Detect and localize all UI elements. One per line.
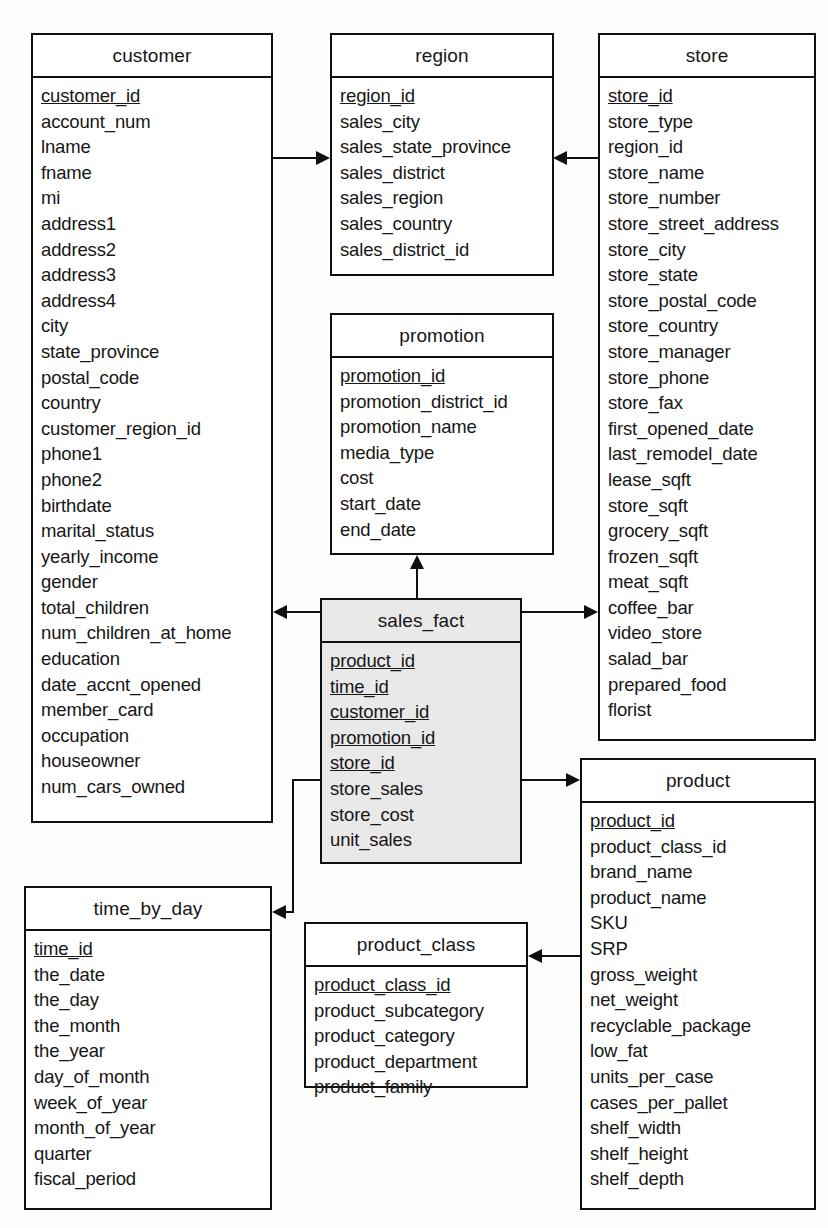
entity-promotion[interactable]: promotion promotion_id promotion_distric… [330, 313, 554, 555]
entity-title-region: region [332, 35, 552, 78]
attribute-row: address1 [41, 211, 271, 237]
attribute-row: phone2 [41, 467, 271, 493]
attribute-list-product: product_id product_class_id brand_name p… [582, 803, 814, 1198]
attribute-row: units_per_case [590, 1064, 814, 1090]
attribute-row: promotion_name [340, 414, 552, 440]
attribute-row: address3 [41, 262, 271, 288]
attribute-row: day_of_month [34, 1064, 270, 1090]
connector-store-region [566, 157, 598, 159]
attribute-row: gross_weight [590, 962, 814, 988]
attribute-row: lname [41, 134, 271, 160]
entity-product-class[interactable]: product_class product_class_id product_s… [304, 922, 528, 1088]
attribute-row: postal_code [41, 365, 271, 391]
attribute-row: store_sales [330, 776, 520, 802]
connector-salesfact-timebyday-seg1 [292, 779, 322, 781]
attribute-row: media_type [340, 440, 552, 466]
attribute-row: florist [608, 697, 814, 723]
erd-canvas: customer customer_id account_num lname f… [0, 0, 828, 1228]
attribute-row: store_number [608, 185, 814, 211]
arrowhead-salesfact-store [584, 605, 598, 619]
attribute-row: fname [41, 160, 271, 186]
entity-region[interactable]: region region_id sales_city sales_state_… [330, 33, 554, 276]
attribute-list-region: region_id sales_city sales_state_provinc… [332, 78, 552, 268]
arrowhead-salesfact-timebyday [272, 905, 286, 919]
attribute-row: marital_status [41, 518, 271, 544]
entity-customer[interactable]: customer customer_id account_num lname f… [31, 33, 273, 823]
attribute-row: last_remodel_date [608, 441, 814, 467]
attribute-row: sales_city [340, 109, 552, 135]
attribute-row: promotion_district_id [340, 389, 552, 415]
attribute-row: promotion_id [340, 363, 552, 389]
attribute-row: yearly_income [41, 544, 271, 570]
attribute-row: brand_name [590, 859, 814, 885]
attribute-row: store_city [608, 237, 814, 263]
attribute-row: start_date [340, 491, 552, 517]
attribute-row: account_num [41, 109, 271, 135]
attribute-row: phone1 [41, 441, 271, 467]
connector-salesfact-customer [286, 611, 320, 613]
attribute-row: store_type [608, 109, 814, 135]
attribute-row: product_class_id [590, 834, 814, 860]
attribute-row: product_id [330, 648, 520, 674]
attribute-row: address4 [41, 288, 271, 314]
attribute-row: store_cost [330, 802, 520, 828]
entity-title-store: store [600, 35, 814, 78]
connector-salesfact-store [522, 611, 585, 613]
attribute-row: product_family [314, 1074, 526, 1100]
attribute-row: month_of_year [34, 1115, 270, 1141]
attribute-row: the_month [34, 1013, 270, 1039]
attribute-row: product_subcategory [314, 998, 526, 1024]
connector-customer-region [273, 157, 318, 159]
attribute-row: store_id [330, 750, 520, 776]
attribute-list-store: store_id store_type region_id store_name… [600, 78, 814, 729]
attribute-row: member_card [41, 697, 271, 723]
attribute-row: net_weight [590, 987, 814, 1013]
attribute-row: fiscal_period [34, 1166, 270, 1192]
attribute-row: salad_bar [608, 646, 814, 672]
attribute-row: the_date [34, 962, 270, 988]
attribute-row: num_children_at_home [41, 620, 271, 646]
attribute-row: sales_country [340, 211, 552, 237]
attribute-row: product_class_id [314, 972, 526, 998]
entity-time-by-day[interactable]: time_by_day time_id the_date the_day the… [24, 886, 272, 1210]
connector-salesfact-timebyday-seg2 [292, 779, 294, 913]
connector-product-productclass [541, 955, 583, 957]
entity-title-time-by-day: time_by_day [26, 888, 270, 931]
attribute-row: meat_sqft [608, 569, 814, 595]
attribute-row: city [41, 313, 271, 339]
arrowhead-salesfact-product [566, 773, 580, 787]
attribute-row: occupation [41, 723, 271, 749]
attribute-list-product-class: product_class_id product_subcategory pro… [306, 967, 526, 1106]
entity-product[interactable]: product product_id product_class_id bran… [580, 758, 816, 1210]
attribute-row: quarter [34, 1141, 270, 1167]
attribute-row: store_phone [608, 365, 814, 391]
attribute-row: shelf_height [590, 1141, 814, 1167]
arrowhead-store-region [553, 151, 567, 165]
attribute-row: address2 [41, 237, 271, 263]
attribute-row: cost [340, 465, 552, 491]
entity-title-promotion: promotion [332, 315, 552, 358]
attribute-row: store_street_address [608, 211, 814, 237]
entity-title-sales-fact: sales_fact [322, 600, 520, 643]
attribute-row: total_children [41, 595, 271, 621]
attribute-list-time-by-day: time_id the_date the_day the_month the_y… [26, 931, 270, 1198]
connector-salesfact-promotion [416, 568, 418, 598]
attribute-row: SKU [590, 910, 814, 936]
attribute-row: date_accnt_opened [41, 672, 271, 698]
attribute-row: grocery_sqft [608, 518, 814, 544]
attribute-row: promotion_id [330, 725, 520, 751]
attribute-row: store_manager [608, 339, 814, 365]
attribute-row: SRP [590, 936, 814, 962]
entity-sales-fact[interactable]: sales_fact product_id time_id customer_i… [320, 598, 522, 864]
attribute-row: education [41, 646, 271, 672]
attribute-row: time_id [330, 674, 520, 700]
attribute-row: end_date [340, 517, 552, 543]
attribute-row: video_store [608, 620, 814, 646]
attribute-row: store_name [608, 160, 814, 186]
attribute-row: state_province [41, 339, 271, 365]
connector-salesfact-timebyday-seg3 [286, 911, 294, 913]
entity-store[interactable]: store store_id store_type region_id stor… [598, 33, 816, 741]
attribute-row: first_opened_date [608, 416, 814, 442]
attribute-row: cases_per_pallet [590, 1090, 814, 1116]
attribute-row: frozen_sqft [608, 544, 814, 570]
